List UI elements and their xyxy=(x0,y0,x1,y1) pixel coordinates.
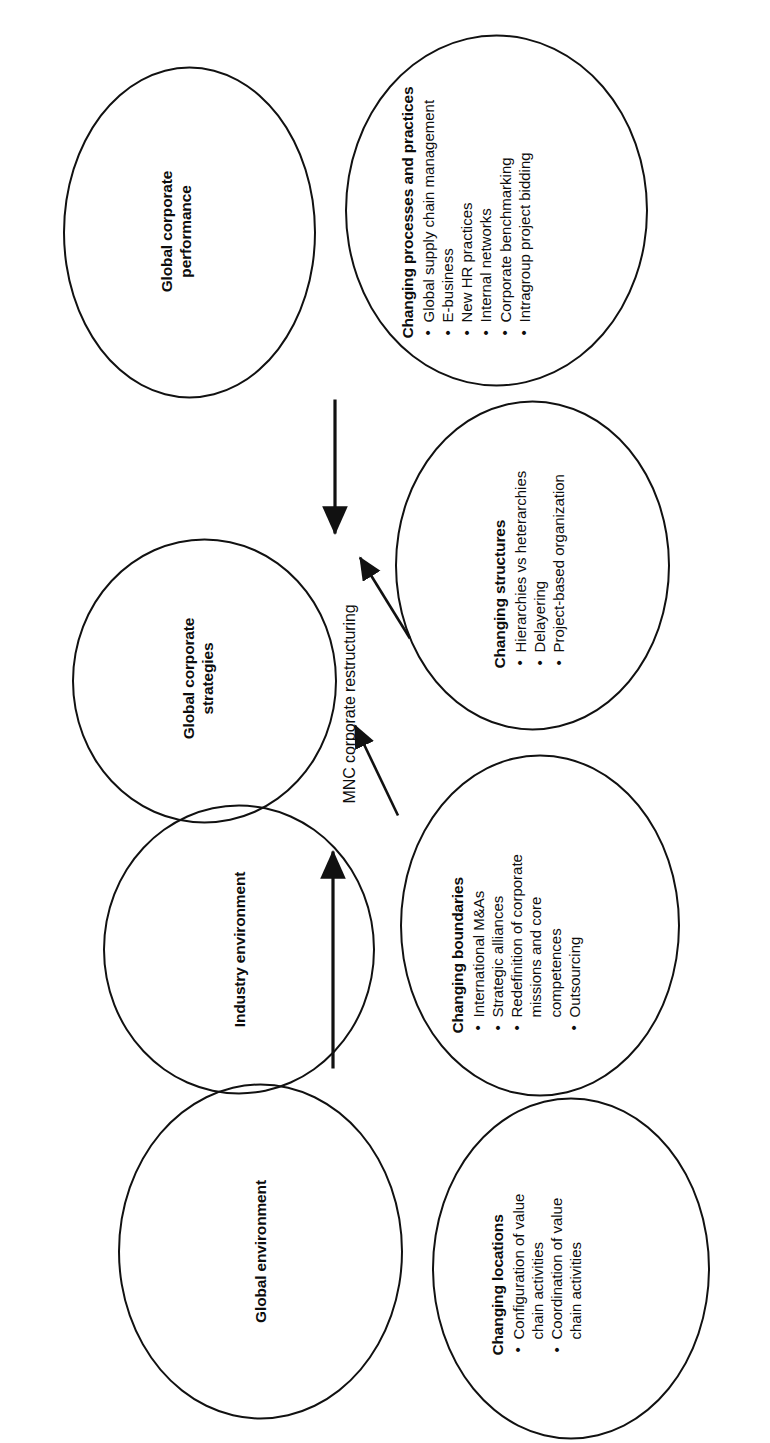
list-item: • International M&As xyxy=(469,771,488,1017)
list-item: • New HR practices xyxy=(457,38,476,322)
changing-structures-list: Changing structures • Hierarchies vs het… xyxy=(490,398,568,668)
item-line: Configuration of value xyxy=(509,1105,528,1339)
global-corporate-performance-label: Global corporate performance xyxy=(158,145,196,317)
changing-locations-list: Changing locations • Configuration of va… xyxy=(488,1105,586,1355)
diagram-canvas: Global environment Industry environment … xyxy=(0,0,770,1443)
performance-label-line1: Global corporate xyxy=(158,170,175,292)
performance-label-line2: performance xyxy=(177,185,194,277)
item-line: Global supply chain management xyxy=(419,38,438,322)
global-corporate-strategies-label: Global corporate strategies xyxy=(180,593,218,763)
bullet-icon: • xyxy=(507,1025,526,1030)
item-line: competences xyxy=(546,771,565,1017)
item-line: Hierarchies vs heterarchies xyxy=(511,398,530,652)
changing-structures-items: • Hierarchies vs heterarchies • Delayeri… xyxy=(511,398,569,668)
changing-boundaries-title: Changing boundaries xyxy=(448,771,468,1033)
item-line: Redefinition of corporate xyxy=(507,771,526,1017)
list-item: • Outsourcing xyxy=(565,771,584,1017)
industry-environment-label: Industry environment xyxy=(231,859,250,1039)
bullet-icon: • xyxy=(547,1347,566,1352)
item-line: Project-based organization xyxy=(549,398,568,652)
list-item: • Project-based organization xyxy=(549,398,568,652)
bullet-icon: • xyxy=(457,330,476,335)
changing-structures-title: Changing structures xyxy=(490,398,510,668)
item-line: Strategic alliances xyxy=(488,771,507,1017)
strategies-label-line1: Global corporate xyxy=(180,617,197,739)
bullet-icon: • xyxy=(564,1025,583,1030)
list-item: • E-business xyxy=(438,38,457,322)
strategies-label-line2: strategies xyxy=(199,642,216,714)
item-line: International M&As xyxy=(469,771,488,1017)
bullet-icon: • xyxy=(476,330,495,335)
list-item: • Redefinition of corporate missions and… xyxy=(507,771,565,1017)
bullet-icon: • xyxy=(514,330,533,335)
list-item: • Coordination of value chain activities xyxy=(547,1105,585,1339)
list-item: • Global supply chain management xyxy=(419,38,438,322)
list-item: • Internal networks xyxy=(476,38,495,322)
list-item: • Corporate benchmarking xyxy=(496,38,515,322)
list-item: • Strategic alliances xyxy=(488,771,507,1017)
item-line: Outsourcing xyxy=(565,771,584,1017)
bullet-icon: • xyxy=(549,660,568,665)
bullet-icon: • xyxy=(508,1347,527,1352)
item-line: Delayering xyxy=(530,398,549,652)
global-environment-label: Global environment xyxy=(252,1151,271,1351)
arrow-industry-environment-to-center xyxy=(355,725,398,815)
changing-processes-title: Changing processes and practices xyxy=(398,38,418,338)
bullet-icon: • xyxy=(495,330,514,335)
diagram-root: Global environment Industry environment … xyxy=(0,0,770,1443)
item-line: chain activities xyxy=(528,1105,547,1339)
bullet-icon: • xyxy=(488,1025,507,1030)
center-label: MNC corporate restructuring xyxy=(341,604,359,803)
list-item: • Configuration of value chain activitie… xyxy=(509,1105,547,1339)
changing-locations-title: Changing locations xyxy=(488,1105,508,1355)
item-line: missions and core xyxy=(526,771,545,1017)
list-item: • Hierarchies vs heterarchies xyxy=(511,398,530,652)
bullet-icon: • xyxy=(438,330,457,335)
changing-processes-and-practices-list: Changing processes and practices • Globa… xyxy=(398,38,534,338)
item-line: New HR practices xyxy=(457,38,476,322)
changing-boundaries-items: • International M&As • Strategic allianc… xyxy=(469,771,584,1033)
bullet-icon: • xyxy=(530,660,549,665)
bullet-icon: • xyxy=(468,1025,487,1030)
changing-boundaries-list: Changing boundaries • International M&As… xyxy=(448,771,584,1033)
item-line: Internal networks xyxy=(476,38,495,322)
item-line: Coordination of value xyxy=(547,1105,566,1339)
bullet-icon: • xyxy=(418,330,437,335)
list-item: • Delayering xyxy=(530,398,549,652)
item-line: Corporate benchmarking xyxy=(496,38,515,322)
changing-processes-items: • Global supply chain management • E-bus… xyxy=(419,38,534,338)
list-item: • Intragroup project bidding xyxy=(515,38,534,322)
item-line: Intragroup project bidding xyxy=(515,38,534,322)
changing-locations-items: • Configuration of value chain activitie… xyxy=(509,1105,586,1355)
bullet-icon: • xyxy=(510,660,529,665)
item-line: chain activities xyxy=(566,1105,585,1339)
item-line: E-business xyxy=(438,38,457,322)
